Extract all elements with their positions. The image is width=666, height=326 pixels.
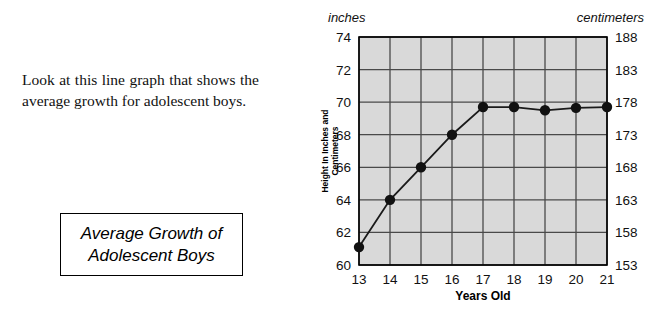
x-tick: 18 (506, 272, 521, 287)
x-tick: 19 (537, 272, 552, 287)
y-left-tick: 62 (336, 225, 351, 240)
y-axis-title-line1: Height In Inches and (320, 109, 330, 192)
x-tick: 13 (351, 272, 366, 287)
x-axis-labels: 131415161718192021 (351, 272, 614, 287)
x-tick: 16 (444, 272, 459, 287)
y-right-tick: 178 (615, 95, 638, 110)
y-right-tick: 183 (615, 63, 638, 78)
x-tick: 14 (382, 272, 398, 287)
y-right-tick: 168 (615, 160, 638, 175)
y-right-tick: 153 (615, 258, 638, 273)
y-left-tick: 64 (336, 193, 352, 208)
data-point (540, 105, 550, 115)
x-tick: 21 (599, 272, 614, 287)
data-point (602, 102, 612, 112)
data-point (385, 195, 395, 205)
y-axis-right-labels: 188183178173168163158153 (615, 30, 638, 273)
data-point (509, 102, 519, 112)
y-left-tick: 70 (336, 95, 351, 110)
chart-svg: inches centimeters 7472706866646260 1881… (306, 0, 666, 326)
data-point (416, 162, 426, 172)
y-left-tick: 60 (336, 258, 351, 273)
data-point (478, 102, 488, 112)
x-axis-title: Years Old (455, 289, 510, 303)
passage-text: Look at this line graph that shows the a… (22, 69, 259, 111)
x-tick: 20 (568, 272, 583, 287)
x-tick: 17 (475, 272, 490, 287)
y-left-tick: 72 (336, 63, 351, 78)
growth-line-chart: inches centimeters 7472706866646260 1881… (306, 0, 666, 326)
left-unit-label: inches (328, 10, 366, 25)
data-point (354, 242, 364, 252)
y-left-tick: 74 (336, 30, 352, 45)
y-right-tick: 163 (615, 193, 638, 208)
data-point (571, 103, 581, 113)
x-tick: 15 (413, 272, 428, 287)
chart-title-box: Average Growth of Adolescent Boys (60, 213, 243, 276)
y-right-tick: 188 (615, 30, 638, 45)
right-unit-label: centimeters (577, 10, 645, 25)
data-point (447, 130, 457, 140)
y-axis-title-line2: Centimeters (330, 126, 340, 175)
chart-title-box-label: Average Growth of Adolescent Boys (81, 223, 222, 267)
y-right-tick: 173 (615, 128, 638, 143)
y-right-tick: 158 (615, 225, 638, 240)
